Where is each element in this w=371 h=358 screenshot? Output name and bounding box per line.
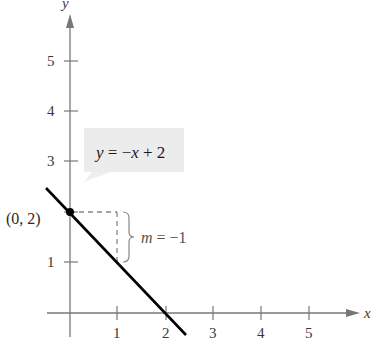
callout-pointer	[84, 172, 110, 182]
x-tick-label-3: 3	[209, 325, 217, 341]
brace-icon	[123, 212, 134, 262]
x-axis: x 1 2 3 4 5	[47, 305, 371, 341]
y-ticks	[64, 61, 78, 262]
y-tick-label-1: 1	[47, 254, 55, 270]
x-axis-label: x	[363, 305, 371, 321]
x-tick-label-4: 4	[257, 325, 265, 341]
y-axis: y 1 3 4 5	[47, 0, 78, 337]
point-label: (0, 2)	[6, 210, 41, 228]
slope-label: m = −1	[141, 229, 187, 246]
line-chart: y = −x + 2 y 1 3 4 5 x 1 2 3 4	[0, 0, 371, 358]
x-tick-label-5: 5	[305, 325, 313, 341]
y-axis-label: y	[60, 0, 69, 11]
equation-label: y = −x + 2	[94, 143, 165, 162]
equation-callout: y = −x + 2	[84, 128, 184, 182]
x-tick-label-2: 2	[162, 325, 170, 341]
y-tick-label-5: 5	[47, 53, 55, 69]
y-tick-label-3: 3	[47, 153, 55, 169]
y-axis-arrow-icon	[66, 14, 74, 28]
y-tick-label-4: 4	[47, 103, 55, 119]
x-axis-arrow-icon	[346, 309, 360, 317]
x-tick-label-1: 1	[113, 325, 121, 341]
intercept-point	[66, 208, 74, 216]
